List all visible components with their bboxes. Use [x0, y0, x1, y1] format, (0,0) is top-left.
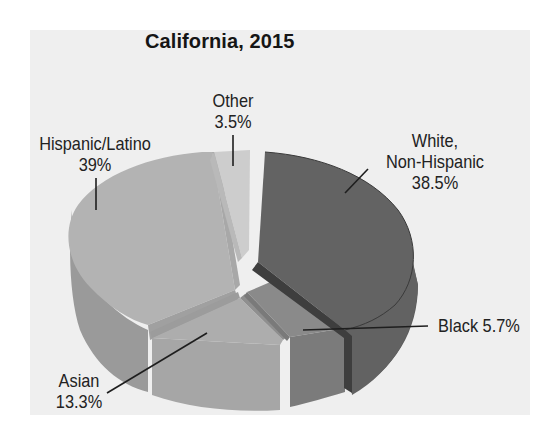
- label-asian: Asian 13.3%: [52, 370, 105, 412]
- label-black: Black 5.7%: [432, 315, 527, 336]
- label-hispanic-latino: Hispanic/Latino 39%: [31, 133, 160, 175]
- label-hispanic-name: Hispanic/Latino: [31, 133, 160, 154]
- label-black-text: Black 5.7%: [432, 315, 527, 336]
- label-asian-value: 13.3%: [52, 391, 105, 412]
- label-white-value: 38.5%: [375, 172, 495, 193]
- label-other-value: 3.5%: [205, 111, 262, 132]
- pie-chart: [0, 0, 558, 433]
- label-white-name-1: White,: [375, 130, 495, 151]
- label-other: Other 3.5%: [205, 90, 262, 132]
- label-white-name-2: Non-Hispanic: [375, 151, 495, 172]
- label-white-non-hispanic: White, Non-Hispanic 38.5%: [375, 130, 495, 193]
- label-asian-name: Asian: [52, 370, 105, 391]
- label-hispanic-value: 39%: [31, 154, 160, 175]
- label-other-name: Other: [205, 90, 262, 111]
